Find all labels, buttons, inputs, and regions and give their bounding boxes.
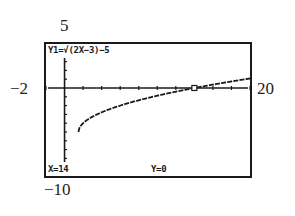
- calculator-screen: Y1=√(2X−3)−5 X=14 Y=0: [44, 42, 252, 178]
- y-readout: Y=0: [151, 165, 166, 174]
- trace-cursor: [192, 86, 197, 91]
- xmax-label: 20: [257, 80, 274, 97]
- graph-plot: [46, 44, 250, 176]
- ymax-label: 5: [60, 17, 69, 34]
- function-curve: [78, 78, 250, 132]
- x-readout: X=14: [48, 165, 68, 174]
- xmin-label: −2: [10, 80, 28, 97]
- equation-label: Y1=√(2X−3)−5: [48, 46, 109, 55]
- ymin-label: −10: [44, 181, 71, 198]
